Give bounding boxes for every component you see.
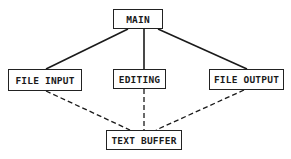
node-label: TEXT BUFFER — [111, 135, 176, 146]
node-label: FILE INPUT — [15, 75, 74, 86]
node-label: FILE OUTPUT — [214, 74, 279, 85]
node-main: MAIN — [113, 9, 163, 29]
node-label: MAIN — [126, 14, 150, 25]
edge-main-file-output — [158, 29, 247, 69]
edge-file-input-text-buffer — [46, 91, 130, 130]
node-file-input: FILE INPUT — [8, 69, 82, 91]
diagram-canvas: MAIN FILE INPUT EDITING FILE OUTPUT TEXT… — [0, 0, 291, 159]
node-text-buffer: TEXT BUFFER — [106, 130, 182, 150]
node-file-output: FILE OUTPUT — [209, 69, 284, 90]
edge-main-file-input — [46, 29, 128, 69]
node-editing: EDITING — [113, 69, 166, 89]
edge-file-output-text-buffer — [156, 90, 244, 130]
node-label: EDITING — [119, 74, 160, 85]
